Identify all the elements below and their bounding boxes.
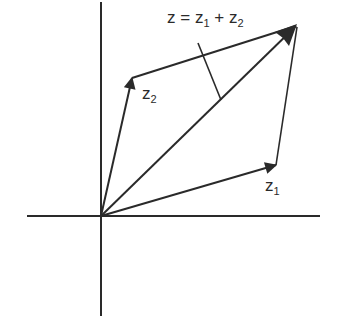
z1-label: z1	[265, 177, 280, 197]
side-z1-to-sum	[276, 27, 297, 165]
sum-label-z: z	[167, 8, 176, 27]
z2-label-sub: 2	[151, 93, 157, 105]
z1-label-base: z	[265, 176, 274, 195]
vector-diagram	[0, 0, 341, 335]
sum-label-sub2: 2	[237, 17, 243, 29]
z2-label: z2	[142, 85, 157, 105]
z1-label-sub: 1	[274, 185, 280, 197]
sum-label: z = z1 + z2	[167, 9, 244, 29]
vector-z2	[101, 78, 132, 216]
sum-label-plus: +	[210, 8, 229, 27]
sum-label-eq: =	[176, 8, 195, 27]
z2-label-base: z	[142, 84, 151, 103]
side-z2-to-sum	[132, 26, 296, 78]
